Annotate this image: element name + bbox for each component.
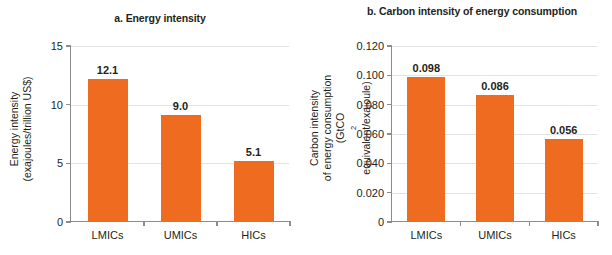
bar-lmics [407,77,445,221]
panel-b-title-line1: b. Carbon intensity [367,5,460,17]
panel-a-y-axis-title-line2: (exajoules/trillion US$) [21,45,34,213]
bar-value-label: 12.1 [97,64,118,76]
bar-hics [234,161,274,221]
x-axis-category-label: HICs [241,229,265,241]
x-axis-category-label: HICs [551,229,575,241]
bar-value-label: 0.086 [481,80,509,92]
y-axis-tick [387,133,392,134]
x-axis-category-label: UMICs [478,229,512,241]
x-axis-tick [216,221,217,226]
gridline [71,46,289,47]
x-axis-category-label: LMICs [92,229,124,241]
y-axis-tick-label: 0 [378,216,384,228]
panel-b-y-axis-title-line3-pre: (GtCO [334,30,347,226]
y-axis-tick [387,163,392,164]
y-axis-tick-label: 15 [51,40,63,52]
y-axis-tick [387,45,392,46]
x-axis-tick [597,221,598,226]
x-axis-tick [143,221,144,226]
chart-panel-b: b. Carbon intensity of energy consumptio… [306,0,612,255]
x-axis-tick [529,221,530,226]
y-axis-tick-label: 0 [57,216,63,228]
bar-umics [476,95,514,221]
gridline [392,46,597,47]
y-axis-tick [387,75,392,76]
panel-b-y-axis-title-line2: of energy consumption [321,30,334,226]
y-axis-tick [66,163,71,164]
bar-value-label: 0.056 [550,124,578,136]
y-axis-tick [387,104,392,105]
y-axis-tick-label: 0.100 [356,69,384,81]
y-axis-tick-label: 0.040 [356,157,384,169]
y-axis-tick-label: 0.060 [356,128,384,140]
x-axis-tick [460,221,461,226]
panel-b-title-line2: of energy consumption [463,5,577,17]
y-axis-tick-label: 10 [51,99,63,111]
y-axis-tick [387,221,392,222]
panel-b-plot-area: 00.0200.0400.0600.0800.1000.1200.098LMIC… [391,46,597,222]
y-axis-tick [66,104,71,105]
two-panel-bar-figure: a. Energy intensity Energy intensity (ex… [0,0,612,255]
y-axis-tick [66,221,71,222]
x-axis-category-label: UMICs [164,229,198,241]
y-axis-tick [387,192,392,193]
x-axis-tick [289,221,290,226]
y-axis-tick-label: 0.080 [356,99,384,111]
panel-a-y-axis-title-line1: Energy intensity [8,45,21,213]
y-axis-tick [66,45,71,46]
panel-b-y-axis-title-line1: Carbon intensity [308,30,321,226]
gridline [392,75,597,76]
y-axis-tick-label: 0.120 [356,40,384,52]
chart-panel-a: a. Energy intensity Energy intensity (ex… [0,0,306,255]
bar-value-label: 5.1 [246,146,261,158]
bar-value-label: 0.098 [413,62,441,74]
bar-lmics [88,79,128,221]
bar-umics [161,115,201,221]
panel-b-title: b. Carbon intensity of energy consumptio… [332,5,612,18]
panel-a-plot-area: 05101512.1LMICs9.0UMICs5.1HICs [70,46,289,222]
panel-a-title: a. Energy intensity [14,12,306,25]
y-axis-tick-label: 0.020 [356,187,384,199]
bar-value-label: 9.0 [173,100,188,112]
bar-hics [545,139,583,221]
panel-a-y-axis-title: Energy intensity (exajoules/trillion US$… [8,45,34,213]
y-axis-tick-label: 5 [57,157,63,169]
x-axis-category-label: LMICs [410,229,442,241]
